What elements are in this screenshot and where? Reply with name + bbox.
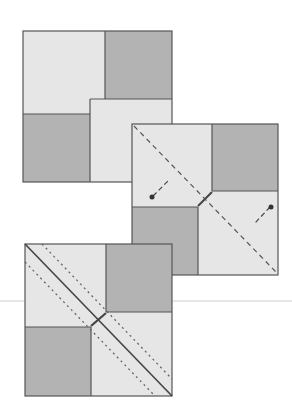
quilt-diagram (0, 0, 292, 417)
step-3-square (25, 244, 172, 396)
